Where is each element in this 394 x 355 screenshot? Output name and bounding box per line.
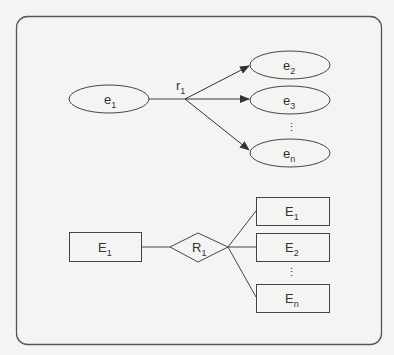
er-diagram: e1 r1 e2 e3 ⋮ en E1 R1 E1 E2 ⋮ En — [0, 0, 394, 355]
svg-text:en: en — [283, 146, 295, 164]
svg-text:En: En — [285, 291, 299, 309]
svg-text:R1: R1 — [192, 240, 206, 258]
svg-text:e1: e1 — [104, 92, 116, 110]
arrow-to-en — [185, 99, 249, 150]
svg-text:e2: e2 — [283, 58, 295, 76]
link-to-E1 — [228, 211, 256, 247]
instance-level-diagram: e1 r1 e2 e3 ⋮ en — [69, 51, 330, 167]
arrow-to-e2 — [185, 66, 249, 99]
svg-text:E2: E2 — [285, 240, 299, 258]
link-to-En — [228, 247, 256, 297]
vertical-ellipsis: ⋮ — [286, 266, 297, 278]
er-schema-diagram: E1 R1 E1 E2 ⋮ En — [70, 198, 330, 313]
svg-text:e3: e3 — [283, 93, 295, 111]
svg-text:E1: E1 — [98, 240, 112, 258]
vertical-ellipsis: ⋮ — [286, 121, 297, 133]
diagram-frame — [17, 17, 382, 345]
relation-label-r1: r1 — [176, 78, 185, 96]
svg-text:E1: E1 — [285, 204, 299, 222]
